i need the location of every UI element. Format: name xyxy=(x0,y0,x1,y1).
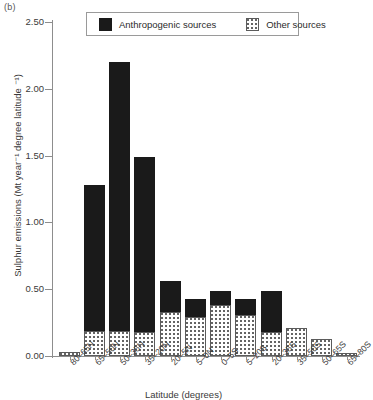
bar-50-35N xyxy=(109,62,130,356)
bar-5-20S xyxy=(235,299,256,356)
bar-segment-anthropogenic xyxy=(160,281,181,312)
bar-segment-anthropogenic xyxy=(84,185,105,331)
bar-segment-anthropogenic xyxy=(261,291,282,332)
y-axis-tick xyxy=(45,89,53,90)
bar-segment-anthropogenic xyxy=(235,299,256,315)
y-axis-tick-label: 0.00 xyxy=(0,350,44,361)
bar-35-20N xyxy=(134,157,155,356)
y-axis-title: Sulphur emissions (Mt year⁻¹ degree lati… xyxy=(12,41,23,311)
x-axis-title: Latitude (degrees) xyxy=(0,389,367,400)
y-axis-tick-label: 2.50 xyxy=(0,16,44,27)
bar-65-50N xyxy=(84,185,105,356)
panel-letter: (b) xyxy=(4,2,16,12)
y-axis-tick xyxy=(45,289,53,290)
y-axis-tick xyxy=(45,22,53,23)
bars-layer xyxy=(57,22,360,356)
y-axis-line xyxy=(52,20,53,358)
y-axis-tick xyxy=(45,222,53,223)
bar-segment-anthropogenic xyxy=(134,157,155,332)
bar-segment-anthropogenic xyxy=(185,299,206,318)
bar-segment-anthropogenic xyxy=(210,291,231,306)
bar-segment-anthropogenic xyxy=(109,62,130,331)
y-axis-tick xyxy=(45,356,53,357)
bar-0-5S xyxy=(210,291,231,356)
plot-area xyxy=(57,22,360,356)
y-axis-tick xyxy=(45,156,53,157)
bar-segment-other xyxy=(210,305,231,356)
